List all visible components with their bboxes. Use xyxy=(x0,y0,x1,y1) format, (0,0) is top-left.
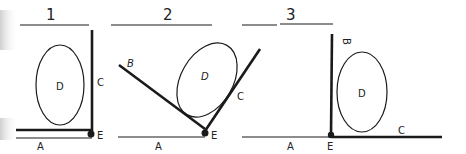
panel-number: 2 xyxy=(163,6,173,24)
label-b: B xyxy=(341,38,352,45)
label-c: C xyxy=(398,125,405,136)
panel-1: 1 D C E A xyxy=(16,6,104,152)
label-a: A xyxy=(287,141,294,152)
label-e: E xyxy=(211,130,217,141)
label-c: C xyxy=(237,91,244,102)
board-b xyxy=(331,34,332,135)
pivot-e xyxy=(328,132,334,138)
pivot-e xyxy=(88,131,95,138)
label-d: D xyxy=(358,88,366,99)
panel-number: 3 xyxy=(286,6,296,24)
label-d: D xyxy=(56,81,64,92)
label-a: A xyxy=(37,141,44,152)
panel-2: 2 D B C E A xyxy=(111,6,260,152)
panel-number: 1 xyxy=(46,6,56,24)
pivot-e xyxy=(202,130,209,137)
diagram-canvas: 1 D C E A 2 D B C E A 3 xyxy=(0,0,466,154)
label-a: A xyxy=(155,141,162,152)
board-b xyxy=(119,65,205,129)
line-c xyxy=(205,49,260,131)
label-b: B xyxy=(127,58,134,69)
panel-3: 3 D B C E A xyxy=(242,6,442,152)
edge-shadow xyxy=(0,118,18,140)
edge-shadow xyxy=(0,10,18,50)
label-d: D xyxy=(201,71,209,82)
label-e: E xyxy=(97,130,103,141)
label-e: E xyxy=(327,141,333,152)
label-c: C xyxy=(97,77,104,88)
